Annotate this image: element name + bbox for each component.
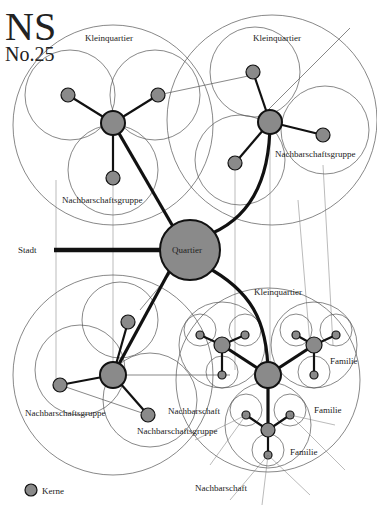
label-nbg-bottom-mid: Nachbarschaftsgruppe (137, 426, 217, 436)
label-kleinquartier-top-right: Kleinquartier (253, 33, 301, 43)
title-number: No.25 (5, 43, 54, 65)
label-kleinquartier-top-left: Kleinquartier (85, 33, 133, 43)
cluster-bottom-right (176, 288, 360, 505)
label-stadt: Stadt (18, 245, 37, 255)
label-familie-3: Familie (290, 447, 318, 457)
label-nbg-top-right: Nachbarschaftsgruppe (275, 149, 355, 159)
label-kleinquartier-bottom-right: Kleinquartier (254, 287, 302, 297)
label-familie-2: Familie (314, 405, 342, 415)
label-nachbarschaft-bottom: Nachbarschaft (195, 483, 247, 493)
kern-node-icon (25, 484, 37, 496)
label-nbg-bottom-left: Nachbarschaftsgruppe (25, 408, 105, 418)
label-nbg-top-left: Nachbarschaftsgruppe (62, 195, 142, 205)
label-quartier: Quartier (172, 245, 202, 255)
legend-label: Kerne (42, 486, 64, 496)
label-nachbarschaft-mid: Nachbarschaft (168, 406, 220, 416)
label-familie-1: Familie (330, 356, 358, 366)
neighborhood-structure-diagram: NS No.25 Kleinquartier Kleinquartier Kle… (0, 0, 377, 507)
